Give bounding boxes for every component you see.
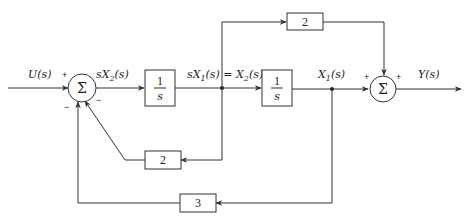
sum2-plus-left: + xyxy=(364,72,369,82)
svg-text:1: 1 xyxy=(274,74,280,88)
sX2-label: sX2(s) xyxy=(96,68,129,83)
sum2-plus-top: + xyxy=(396,72,401,82)
svg-text:1: 1 xyxy=(157,74,163,88)
summing-junction-2: Σ xyxy=(370,76,396,102)
sigma-symbol: Σ xyxy=(378,81,388,97)
X1-label: X1(s) xyxy=(317,68,345,83)
svg-text:s: s xyxy=(157,90,163,103)
sum1-minus-sign-inner: − xyxy=(96,95,101,105)
outer-feedback-gain-block: 3 xyxy=(180,194,216,212)
svg-text:2: 2 xyxy=(160,153,166,167)
sX1-eq-X2-label: sX1(s) = X2(s) xyxy=(187,68,263,83)
sum1-plus-sign: + xyxy=(62,70,67,80)
sum1-minus-sign-outer: − xyxy=(64,102,69,112)
input-label: U(s) xyxy=(28,68,52,81)
integrator-block-2: 1 s xyxy=(262,70,292,106)
inner-feedback-wire-out xyxy=(85,101,145,160)
inner-feedback-wire-in xyxy=(181,88,222,160)
sigma-symbol: Σ xyxy=(77,80,87,96)
svg-text:2: 2 xyxy=(302,15,308,29)
output-label: Y(s) xyxy=(418,68,440,81)
inner-feedback-gain-block: 2 xyxy=(145,151,181,169)
feedforward-gain-block: 2 xyxy=(287,13,323,30)
summing-junction-1: Σ xyxy=(68,74,96,102)
svg-text:3: 3 xyxy=(195,196,201,210)
block-diagram: U(s) + Σ − − sX2(s) 1 s sX1(s) = X2(s) 1… xyxy=(0,0,470,222)
svg-text:s: s xyxy=(274,90,280,103)
integrator-block-1: 1 s xyxy=(145,70,175,106)
